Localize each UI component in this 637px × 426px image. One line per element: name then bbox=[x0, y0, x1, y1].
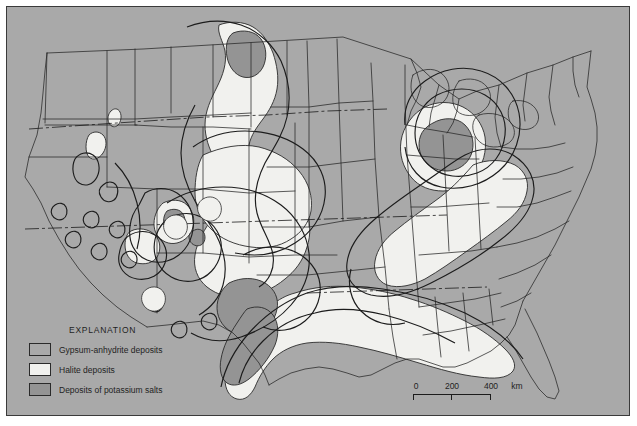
legend-label-potassium-salts: Deposits of potassium salts bbox=[59, 385, 162, 395]
scale-label-400: 400 bbox=[484, 381, 498, 391]
legend-item-halite: Halite deposits bbox=[29, 363, 229, 376]
legend-title: EXPLANATION bbox=[69, 325, 229, 335]
map-page: EXPLANATION Gypsum-anhydrite deposits Ha… bbox=[0, 0, 637, 426]
scale-bar-rule bbox=[413, 394, 491, 403]
scale-tick-200 bbox=[451, 394, 452, 400]
scale-label-0: 0 bbox=[414, 381, 419, 391]
scale-bar-labels: 0 200 400 km bbox=[413, 381, 523, 393]
scale-tick-400 bbox=[490, 394, 491, 400]
legend-label-gypsum-anhydrite: Gypsum-anhydrite deposits bbox=[59, 345, 162, 355]
legend-item-potassium-salts: Deposits of potassium salts bbox=[29, 383, 229, 396]
map-legend: EXPLANATION Gypsum-anhydrite deposits Ha… bbox=[29, 325, 229, 403]
legend-label-halite: Halite deposits bbox=[59, 365, 115, 375]
scale-label-200: 200 bbox=[445, 381, 459, 391]
scale-bar: 0 200 400 km bbox=[413, 381, 523, 403]
map-frame: EXPLANATION Gypsum-anhydrite deposits Ha… bbox=[6, 6, 630, 416]
scale-tick-0 bbox=[413, 394, 414, 400]
potassium-salts-swatch bbox=[29, 383, 51, 396]
halite-swatch bbox=[29, 363, 51, 376]
scale-label-unit: km bbox=[511, 381, 522, 391]
gypsum-anhydrite-swatch bbox=[29, 343, 51, 356]
scale-bar-line bbox=[413, 394, 491, 395]
legend-item-gypsum-anhydrite: Gypsum-anhydrite deposits bbox=[29, 343, 229, 356]
